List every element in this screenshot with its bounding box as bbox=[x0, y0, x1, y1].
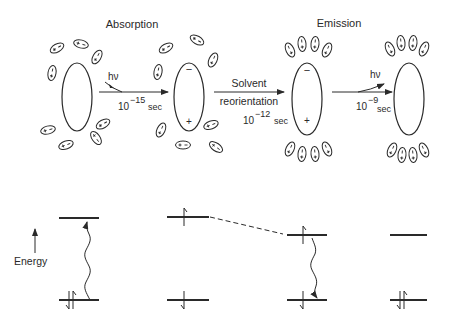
time-exponent: −15 bbox=[130, 95, 145, 105]
solvent-dipole bbox=[49, 41, 66, 55]
solvent-dipole bbox=[58, 139, 75, 152]
energy-level-stage-3 bbox=[287, 226, 327, 309]
solvent-dipole bbox=[297, 36, 306, 52]
solvent-dipole bbox=[176, 141, 191, 149]
solvent-dipole bbox=[208, 139, 225, 154]
solvent-dipole bbox=[397, 147, 406, 163]
solvent-label: Solvent bbox=[231, 77, 266, 89]
solvent-dipole bbox=[154, 122, 168, 139]
solute-charge-bottom: + bbox=[186, 116, 192, 127]
solvent-dipole bbox=[153, 64, 163, 80]
solvent-dipole bbox=[417, 142, 431, 159]
absorption-title: Absorption bbox=[106, 18, 159, 30]
solvent-dipole bbox=[408, 35, 417, 51]
photon-label: hν bbox=[370, 69, 381, 80]
time-exponent: −12 bbox=[255, 109, 270, 119]
solute-ground-state bbox=[62, 63, 92, 131]
time-unit: sec bbox=[148, 102, 163, 112]
reorientation-step: Solvent reorientation 10 −12 sec bbox=[214, 77, 289, 126]
solvent-dipole bbox=[310, 36, 319, 52]
solvent-dipole bbox=[158, 41, 175, 55]
time-base: 10 bbox=[118, 101, 130, 112]
solvent-dipole bbox=[417, 41, 431, 58]
solvent-dipole bbox=[283, 42, 297, 59]
solvent-dipole bbox=[73, 38, 90, 50]
solvent-dipole bbox=[189, 33, 206, 47]
emission-step: hν 10 −9 sec bbox=[332, 69, 392, 114]
solvent-dipole bbox=[95, 117, 112, 131]
absorption-step: hν 10 −15 sec bbox=[99, 71, 168, 112]
photon-arrowhead-icon bbox=[109, 84, 114, 88]
solute-relaxed-excited: − + bbox=[292, 63, 322, 135]
energy-level-stage-1 bbox=[59, 218, 99, 309]
solvent-dipole bbox=[90, 49, 104, 66]
solvent-dipole bbox=[320, 42, 334, 59]
solvatochromism-diagram: Absorption Emission − + − + hν 10 −15 se… bbox=[0, 0, 452, 332]
solute-charge-top: − bbox=[304, 64, 310, 76]
solvent-dipole bbox=[297, 146, 306, 162]
time-base: 10 bbox=[243, 115, 255, 126]
solvent-dipole bbox=[408, 147, 417, 163]
energy-levels bbox=[59, 208, 427, 309]
solute-charge-bottom: + bbox=[304, 115, 310, 126]
solute-franck-condon-excited: − + bbox=[174, 63, 204, 131]
solvent-dipole bbox=[47, 65, 57, 81]
photon-label: hν bbox=[108, 71, 119, 82]
time-base: 10 bbox=[356, 101, 368, 112]
relaxation-dashed-line bbox=[210, 217, 283, 234]
solvent-dipole bbox=[206, 52, 220, 69]
emission-title: Emission bbox=[317, 17, 362, 29]
solvent-dipole bbox=[88, 130, 103, 147]
time-unit: sec bbox=[274, 116, 289, 126]
solvent-dipole bbox=[40, 124, 57, 136]
photon-out-curve bbox=[358, 84, 384, 92]
solvent-dipole bbox=[396, 35, 405, 51]
reorientation-label: reorientation bbox=[220, 95, 279, 107]
energy-label: Energy bbox=[14, 255, 48, 267]
solvent-dipole bbox=[320, 141, 334, 158]
solute-franck-condon-ground bbox=[394, 63, 424, 135]
solvent-dipole bbox=[383, 41, 397, 58]
solvent-dipole bbox=[283, 141, 297, 158]
energy-level-stage-2 bbox=[167, 208, 209, 309]
solvent-dipole bbox=[385, 142, 399, 159]
emission-wavy-arrow bbox=[311, 238, 317, 298]
energy-level-stage-4 bbox=[390, 235, 427, 309]
solvent-dipole bbox=[310, 146, 319, 162]
solute-charge-top: − bbox=[186, 63, 192, 75]
solvent-dipole bbox=[203, 119, 220, 132]
time-unit: sec bbox=[377, 104, 392, 114]
absorption-wavy-arrow bbox=[85, 222, 90, 300]
energy-axis: Energy bbox=[14, 229, 48, 267]
photon-in-curve bbox=[105, 82, 122, 92]
